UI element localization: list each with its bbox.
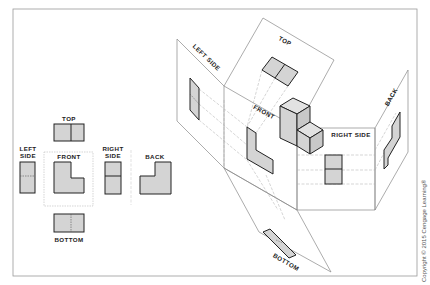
label-bottom: BOTTOM [54, 236, 83, 243]
label-back: BACK [145, 153, 165, 160]
orthographic-projection-diagram: TOP LEFT SIDE FRONT RIGHT SIDE BACK BOTT… [0, 0, 430, 285]
isometric-object [280, 98, 323, 154]
top-view-shape [54, 124, 84, 141]
label-left-side: SIDE [20, 152, 36, 159]
label-top: TOP [62, 115, 76, 122]
back-view-shape [140, 162, 171, 194]
right-side-view-shape [105, 162, 121, 194]
bottom-view-shape [54, 214, 84, 232]
label-left: LEFT [19, 145, 36, 152]
front-view-shape [54, 162, 84, 193]
left-side-projection [190, 78, 199, 120]
label-front: FRONT [57, 153, 80, 160]
label-glass-back: BACK [383, 86, 399, 106]
copyright-text: Copyright © 2015 Cengage Learning® [421, 179, 427, 282]
label-right: RIGHT [102, 145, 123, 152]
front-projection [247, 127, 273, 174]
flat-views: TOP LEFT SIDE FRONT RIGHT SIDE BACK BOTT… [19, 115, 171, 243]
left-side-view-shape [20, 162, 35, 193]
label-glass-top: TOP [277, 34, 292, 47]
label-glass-right-side: RIGHT SIDE [331, 131, 370, 138]
label-right-side: SIDE [105, 152, 121, 159]
label-glass-left-side: LEFT SIDE [192, 42, 222, 72]
